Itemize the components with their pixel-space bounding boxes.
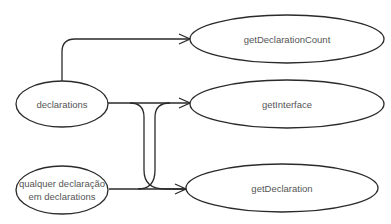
node-label: getDeclaration bbox=[251, 183, 312, 194]
diagram-canvas: declarations qualquer declaração em decl… bbox=[0, 0, 391, 224]
node-declarations[interactable]: declarations bbox=[16, 81, 108, 127]
node-qualquer-declaracao[interactable]: qualquer declaração em declarations bbox=[16, 166, 108, 214]
node-getdeclarationcount[interactable]: getDeclarationCount bbox=[190, 15, 384, 63]
node-label: getDeclarationCount bbox=[244, 34, 331, 45]
edge-qualquer-to-getinterface bbox=[138, 103, 170, 189]
node-label-line1: qualquer declaração bbox=[19, 178, 105, 189]
node-getinterface[interactable]: getInterface bbox=[190, 80, 384, 128]
node-label: declarations bbox=[36, 99, 87, 110]
node-label: getInterface bbox=[262, 99, 312, 110]
edge-declarations-to-getdeclarationcount bbox=[62, 39, 190, 81]
node-label-line2: em declarations bbox=[28, 191, 95, 202]
node-getdeclaration[interactable]: getDeclaration bbox=[186, 164, 378, 212]
edge-declarations-to-getdeclaration bbox=[130, 103, 186, 189]
